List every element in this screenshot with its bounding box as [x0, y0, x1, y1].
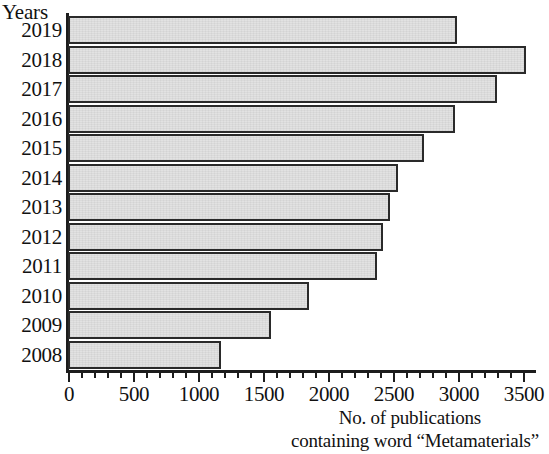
x-tick-minor [224, 373, 226, 378]
x-tick-label: 1000 [179, 382, 219, 406]
plot-area [66, 13, 536, 373]
x-tick-minor [445, 373, 447, 378]
x-tick-minor [497, 373, 499, 378]
x-tick-major [458, 373, 460, 382]
x-tick-minor [302, 373, 304, 378]
x-axis-title-line-1: No. of publications [0, 406, 545, 429]
x-axis-title: No. of publications containing word “Met… [0, 406, 545, 452]
x-tick-label: 2000 [309, 382, 349, 406]
x-tick-minor [94, 373, 96, 378]
x-tick-major [523, 373, 525, 382]
x-tick-minor [276, 373, 278, 378]
bar [68, 223, 383, 251]
y-tick-label: 2015 [0, 137, 62, 159]
bar [68, 311, 271, 339]
y-tick-label: 2018 [0, 49, 62, 71]
x-tick-minor [211, 373, 213, 378]
bar-texture [70, 254, 375, 278]
x-tick-minor [419, 373, 421, 378]
bar-texture [70, 48, 524, 72]
bar-texture [70, 166, 396, 190]
bar-texture [70, 284, 307, 308]
x-tick-minor [471, 373, 473, 378]
x-tick-major [393, 373, 395, 382]
x-tick-minor [146, 373, 148, 378]
x-tick-minor [159, 373, 161, 378]
x-tick-minor [510, 373, 512, 378]
y-axis-tick-labels: 2019201820172016201520142013201220112010… [0, 16, 62, 368]
x-tick-minor [406, 373, 408, 378]
x-tick-label: 3500 [504, 382, 544, 406]
x-tick-major [263, 373, 265, 382]
x-axis-tick-labels: 0500100015002000250030003500 [0, 382, 549, 408]
x-tick-minor [289, 373, 291, 378]
bar [68, 164, 398, 192]
y-tick-label: 2016 [0, 108, 62, 130]
bar [68, 134, 424, 162]
x-tick-major [68, 373, 70, 382]
y-tick-label: 2012 [0, 226, 62, 248]
x-tick-minor [367, 373, 369, 378]
bar-texture [70, 225, 381, 249]
bar [68, 252, 377, 280]
bar [68, 341, 221, 369]
x-tick-label: 0 [64, 382, 74, 406]
x-tick-major [133, 373, 135, 382]
bar-texture [70, 343, 219, 367]
bar [68, 16, 457, 44]
x-tick-label: 2500 [374, 382, 414, 406]
x-tick-minor [250, 373, 252, 378]
x-tick-major [198, 373, 200, 382]
y-tick-label: 2009 [0, 314, 62, 336]
x-tick-minor [432, 373, 434, 378]
bar-texture [70, 313, 269, 337]
x-tick-minor [172, 373, 174, 378]
x-axis-title-line-2: containing word “Metamaterials” [0, 429, 545, 452]
bar-texture [70, 77, 495, 101]
x-tick-minor [185, 373, 187, 378]
x-tick-label: 500 [119, 382, 149, 406]
y-tick-label: 2013 [0, 196, 62, 218]
bar [68, 193, 390, 221]
x-tick-minor [107, 373, 109, 378]
bar [68, 75, 497, 103]
x-tick-minor [484, 373, 486, 378]
y-tick-label: 2011 [0, 255, 62, 277]
bar-texture [70, 195, 388, 219]
y-tick-label: 2008 [0, 344, 62, 366]
x-tick-minor [341, 373, 343, 378]
bar-texture [70, 107, 453, 131]
x-tick-minor [120, 373, 122, 378]
y-tick-label: 2019 [0, 19, 62, 41]
bar-chart: Years 2019201820172016201520142013201220… [0, 0, 549, 454]
x-tick-major [328, 373, 330, 382]
y-tick-label: 2010 [0, 285, 62, 307]
bar-texture [70, 18, 455, 42]
bar [68, 282, 309, 310]
x-tick-minor [354, 373, 356, 378]
x-tick-label: 3000 [439, 382, 479, 406]
y-tick-label: 2014 [0, 167, 62, 189]
bars-layer [68, 16, 536, 370]
x-tick-minor [315, 373, 317, 378]
x-axis-ticks [66, 373, 536, 382]
bar [68, 46, 526, 74]
x-tick-minor [81, 373, 83, 378]
x-tick-minor [237, 373, 239, 378]
bar [68, 105, 455, 133]
x-tick-label: 1500 [244, 382, 284, 406]
x-tick-minor [380, 373, 382, 378]
y-tick-label: 2017 [0, 78, 62, 100]
bar-texture [70, 136, 422, 160]
